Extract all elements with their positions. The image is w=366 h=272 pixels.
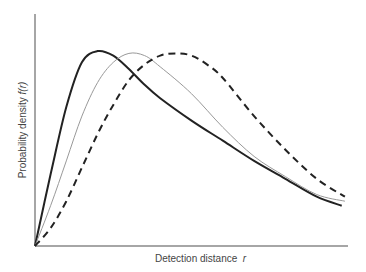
x-axis-label-var: r [243,253,246,264]
curve-thin-gray [35,53,345,246]
x-axis-label: Detection distance r [155,253,246,264]
y-axis-label: Probability density f(r) [17,82,28,179]
probability-density-chart [0,0,366,272]
curve-dashed [35,53,345,246]
curve-solid-thick [35,51,342,246]
x-axis-label-text: Detection distance [155,253,237,264]
y-axis-label-text: Probability density [17,97,28,178]
axes [35,14,348,246]
curves [35,51,345,246]
y-axis-label-var: f(r) [17,82,28,95]
